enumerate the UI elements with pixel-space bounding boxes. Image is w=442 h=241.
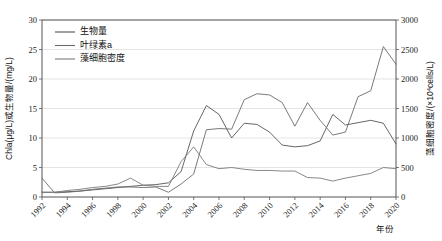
y-tick-label-right: 500	[401, 163, 414, 173]
series-line-3	[42, 147, 396, 192]
x-tick-label: 2006	[205, 200, 224, 219]
x-tick-label: 2016	[332, 200, 351, 219]
legend: 生物量叶绿素a藻细胞密度	[55, 25, 125, 63]
series-group	[42, 47, 396, 193]
x-axis-title: 年份	[376, 224, 394, 234]
y-tick-label-right: 2000	[401, 74, 418, 84]
y-tick-label-left: 30	[29, 15, 38, 25]
x-tick-label: 2010	[256, 200, 275, 219]
x-tick-label: 2014	[306, 200, 326, 220]
series-line-1	[42, 106, 396, 193]
legend-label-1: 生物量	[80, 25, 107, 36]
legend-label-3: 藻细胞密度	[80, 52, 125, 63]
y-tick-label-right: 0	[401, 192, 405, 202]
x-tick-label: 1996	[79, 200, 98, 219]
x-tick-label: 2012	[281, 200, 300, 219]
x-tick-label: 1992	[28, 200, 47, 219]
x-tick-label: 2004	[180, 200, 200, 220]
x-tick-label: 2000	[129, 200, 148, 219]
y-tick-label-left: 0	[33, 192, 37, 202]
y-tick-label-left: 5	[33, 163, 37, 173]
x-tick-label: 2020	[382, 200, 401, 219]
line-chart: 0510152025300500100015002000250030001992…	[0, 0, 442, 241]
y-tick-label-left: 25	[29, 45, 38, 55]
y-tick-label-right: 3000	[401, 15, 418, 25]
x-tick-label: 2018	[357, 200, 376, 219]
x-tick-label: 2008	[231, 200, 250, 219]
y-axis-right: 050010001500200025003000	[396, 15, 418, 202]
y-tick-label-right: 2500	[401, 45, 418, 55]
y-axis-title-right: 藻细胞密度/(×104cells/L)	[425, 61, 435, 156]
x-tick-label: 1994	[54, 200, 74, 220]
x-tick-label: 1998	[104, 200, 123, 219]
legend-label-2: 叶绿素a	[80, 39, 112, 50]
y-tick-label-left: 20	[29, 74, 38, 84]
y-tick-label-left: 15	[29, 104, 38, 114]
y-tick-label-left: 10	[29, 133, 38, 143]
y-tick-label-right: 1000	[401, 133, 418, 143]
y-axis-title-left: Chla(μg/L)或生物量/(mg/L)	[4, 57, 14, 160]
y-axis-left: 051015202530	[29, 15, 43, 202]
chart-container: 0510152025300500100015002000250030001992…	[0, 0, 442, 241]
y-tick-label-right: 1500	[401, 104, 418, 114]
x-axis: 1992199419961998200020022004200620082010…	[28, 197, 401, 219]
x-tick-label: 2002	[155, 200, 174, 219]
series-line-2	[42, 47, 396, 193]
